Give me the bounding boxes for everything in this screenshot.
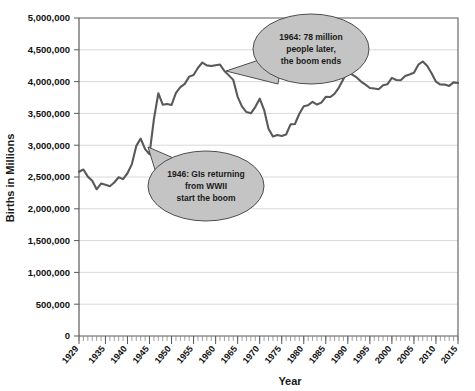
boom-starts-callout-line-3: start the boom [176,193,235,203]
births-chart: 0500,0001,000,0001,500,0002,000,0002,500… [0,0,475,391]
x-tick-label: 1935 [86,344,107,366]
annotation-boom-ends: 1964: 78 million people later, the boom … [226,14,369,84]
chart-canvas: 0500,0001,000,0001,500,0002,000,0002,500… [0,0,475,391]
x-tick-label: 1995 [351,344,372,366]
x-tick-label: 2005 [395,344,416,366]
y-tick-label: 3,000,000 [28,140,70,151]
annotation-boom-starts: 1946: GIs returning from WWII start the … [148,147,264,221]
x-axis-ticks: 1929193519401945195019551960196519701975… [60,336,460,366]
x-axis-title: Year [278,375,302,387]
x-tick-label: 1960 [197,344,218,366]
boom-ends-callout-line-3: the boom ends [281,56,342,66]
boom-starts-callout-line-2: from WWII [185,181,227,191]
x-tick-label: 1940 [108,344,129,366]
y-tick-label: 0 [65,330,70,341]
x-tick-label: 1970 [241,344,262,366]
y-tick-label: 1,500,000 [28,235,70,246]
y-tick-label: 4,000,000 [28,76,70,87]
y-axis-ticks: 0500,0001,000,0001,500,0002,000,0002,500… [28,12,79,341]
y-tick-label: 3,500,000 [28,108,70,119]
x-tick-label: 1950 [153,344,174,366]
boom-starts-callout-line-1: 1946: GIs returning [167,169,244,179]
x-tick-label: 1955 [175,344,196,366]
boom-ends-callout-line-1: 1964: 78 million [279,32,342,42]
x-tick-label: 2000 [373,344,394,366]
y-tick-label: 4,500,000 [28,44,70,55]
x-tick-label: 2015 [439,344,460,366]
x-tick-label: 1929 [60,344,81,366]
x-tick-label: 2010 [417,344,438,366]
y-tick-label: 2,500,000 [28,171,70,182]
y-tick-label: 1,000,000 [28,267,70,278]
y-axis-title: Births in Millions [4,134,16,223]
x-tick-label: 1980 [285,344,306,366]
x-tick-label: 1985 [307,344,328,366]
y-tick-label: 500,000 [36,299,70,310]
x-tick-label: 1965 [219,344,240,366]
y-tick-label: 2,000,000 [28,203,70,214]
x-tick-label: 1945 [131,344,152,366]
x-tick-label: 1990 [329,344,350,366]
gridlines [79,50,458,304]
x-axis-minor-ticks [79,336,458,341]
x-tick-label: 1975 [263,344,284,366]
boom-ends-callout-line-2: people later, [286,44,336,54]
y-tick-label: 5,000,000 [28,12,70,23]
